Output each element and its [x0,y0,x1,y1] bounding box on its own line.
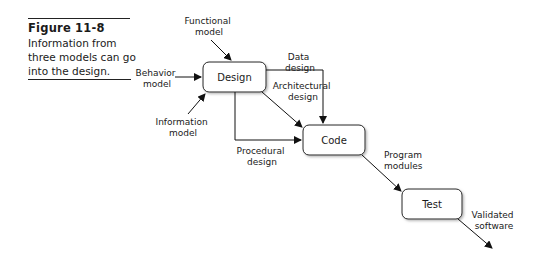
program-modules-label: Program modules [384,150,425,171]
information-model-label: Information model [156,117,211,138]
design-box-label: Design [217,72,252,83]
test-box-label: Test [421,199,442,210]
data-design-label: Data design [285,52,315,73]
code-box-label: Code [321,135,347,146]
functional-model-arrow [211,40,231,60]
code-box: Code [303,125,365,155]
functional-model-label: Functional model [184,16,233,37]
architectural-design-label: Architectural design [273,81,334,102]
design-box: Design [203,62,266,92]
information-model-arrow [188,94,205,114]
procedural-design-label: Procedural design [237,146,288,167]
test-box: Test [402,189,462,219]
validated-software-label: Validated software [472,210,517,231]
design-flow-diagram: Design Code Test Functional model Behavi… [0,0,536,260]
behavior-model-label: Behavior model [136,68,179,89]
